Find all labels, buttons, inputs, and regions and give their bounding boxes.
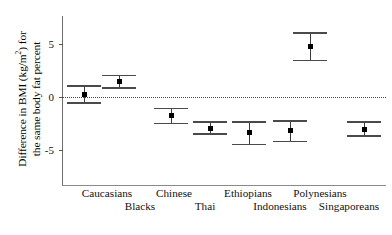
y-axis-title-superscript: 2 bbox=[14, 51, 23, 55]
error-bar-cap-lower bbox=[154, 123, 188, 125]
data-point-marker bbox=[362, 127, 367, 132]
error-bar-cap-lower bbox=[273, 141, 307, 143]
y-axis-title-line-1-text: Difference in BMI (kg/m bbox=[16, 54, 28, 166]
error-bar-cap-lower bbox=[102, 87, 136, 89]
plot-area: 50-5 bbox=[62, 16, 386, 186]
x-axis-label: Chinese bbox=[156, 187, 192, 200]
error-bar-cap-upper bbox=[102, 75, 136, 77]
data-point-marker bbox=[288, 128, 293, 133]
error-bar-cap-upper bbox=[232, 121, 266, 123]
x-axis-label: Thai bbox=[195, 200, 216, 213]
y-tick-label: 5 bbox=[49, 38, 55, 49]
y-axis-title: Difference in BMI (kg/m2) for the same b… bbox=[2, 4, 48, 194]
error-bar-cap-lower bbox=[193, 133, 227, 135]
y-tick-label: -5 bbox=[45, 144, 54, 155]
zero-reference-line bbox=[62, 97, 386, 98]
y-tick-label: 0 bbox=[49, 91, 55, 102]
data-point-marker bbox=[117, 79, 122, 84]
data-point-marker bbox=[247, 130, 252, 135]
data-point-marker bbox=[169, 113, 174, 118]
error-bar-cap-upper bbox=[347, 121, 381, 123]
error-bar-cap-upper bbox=[154, 108, 188, 110]
y-tick-mark: 5 bbox=[59, 44, 63, 45]
x-axis-label: Polynesians bbox=[293, 187, 346, 200]
error-bar-cap-upper bbox=[293, 32, 327, 34]
error-bar-cap-lower bbox=[347, 135, 381, 137]
x-axis-label: Singaporeans bbox=[319, 200, 379, 213]
x-axis-label: Ethiopians bbox=[224, 187, 272, 200]
x-axis-label: Indonesians bbox=[253, 200, 306, 213]
bmi-difference-errorbar-chart: Difference in BMI (kg/m2) for the same b… bbox=[0, 0, 392, 235]
y-axis-line bbox=[62, 16, 63, 186]
error-bar-cap-upper bbox=[273, 120, 307, 122]
x-axis-label: Blacks bbox=[125, 200, 155, 213]
error-bar-cap-lower bbox=[232, 144, 266, 146]
x-axis-label: Caucasians bbox=[82, 187, 132, 200]
error-bar-cap-upper bbox=[67, 85, 101, 87]
error-bar-cap-lower bbox=[293, 60, 327, 62]
x-axis-category-labels: CaucasiansChineseEthiopiansPolynesiansBl… bbox=[0, 187, 392, 231]
error-bar-cap-lower bbox=[67, 102, 101, 104]
data-point-marker bbox=[208, 126, 213, 131]
x-axis-line bbox=[62, 185, 386, 186]
data-point-marker bbox=[82, 92, 87, 97]
error-bar-cap-upper bbox=[193, 121, 227, 123]
y-tick-mark: -5 bbox=[59, 150, 63, 151]
y-axis-title-line-1-tail: ) for bbox=[16, 31, 28, 50]
data-point-marker bbox=[308, 44, 313, 49]
